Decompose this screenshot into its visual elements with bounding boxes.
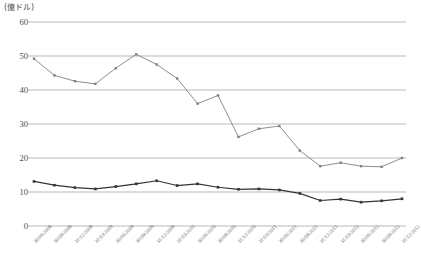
data-point-marker [298, 192, 301, 195]
data-point-marker [176, 184, 179, 187]
data-point-marker [135, 53, 137, 55]
data-point-marker [319, 199, 322, 202]
y-axis-tick-label: 20 [2, 154, 28, 163]
data-point-marker [237, 188, 240, 191]
data-point-marker [196, 102, 198, 104]
data-point-marker [258, 128, 260, 130]
gridlines-group [28, 22, 406, 226]
y-axis-tick-column: 0102030405060 [0, 0, 28, 269]
data-point-marker [94, 83, 96, 85]
line-series-upper [34, 54, 402, 167]
data-point-marker [278, 189, 281, 192]
y-axis-tick-label: 0 [2, 222, 28, 231]
data-point-marker [53, 74, 55, 76]
data-point-marker [380, 166, 382, 168]
y-axis-tick-label: 40 [2, 86, 28, 95]
data-point-marker [319, 165, 321, 167]
data-point-marker [33, 180, 36, 183]
data-point-marker [155, 179, 158, 182]
data-point-marker [53, 184, 56, 187]
data-point-marker [217, 94, 219, 96]
data-point-marker [74, 80, 76, 82]
y-axis-tick-label: 30 [2, 120, 28, 129]
data-point-marker [278, 125, 280, 127]
data-point-marker [258, 188, 261, 191]
data-point-marker [360, 165, 362, 167]
data-point-marker [33, 58, 35, 60]
data-point-marker [380, 200, 383, 203]
data-point-marker [196, 183, 199, 186]
data-point-marker [339, 198, 342, 201]
y-axis-tick-label: 60 [2, 18, 28, 27]
data-point-marker [237, 136, 239, 138]
series-group [33, 53, 404, 203]
y-axis-tick-label: 10 [2, 188, 28, 197]
data-point-marker [401, 198, 404, 201]
data-point-marker [94, 188, 97, 191]
data-point-marker [217, 186, 220, 189]
data-point-marker [135, 183, 138, 186]
data-point-marker [339, 162, 341, 164]
y-axis-tick-label: 50 [2, 52, 28, 61]
data-point-marker [176, 77, 178, 79]
data-point-marker [299, 149, 301, 151]
data-point-marker [115, 67, 117, 69]
data-point-marker [401, 157, 403, 159]
data-point-marker [360, 201, 363, 204]
data-point-marker [114, 185, 117, 188]
x-axis-label-row: 30/06/200830/09/200831/12/200831/03/2009… [30, 230, 406, 269]
line-series-lower [34, 181, 402, 202]
data-point-marker [74, 186, 77, 189]
plot-area [30, 18, 406, 230]
data-point-marker [155, 63, 157, 65]
chart-svg [30, 18, 406, 230]
